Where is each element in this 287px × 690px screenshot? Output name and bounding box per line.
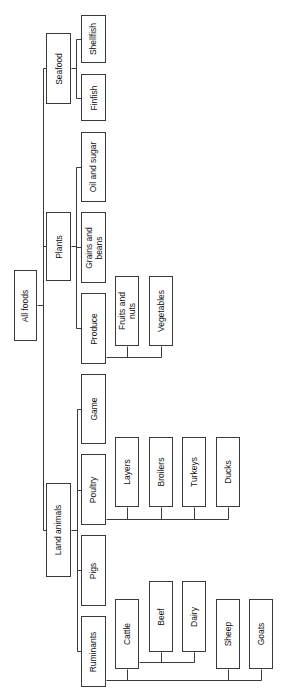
node-label: Produce bbox=[89, 313, 99, 345]
node-dairy: Dairy bbox=[182, 581, 206, 652]
node-layers: Layers bbox=[115, 437, 139, 507]
node-label: Grains and beans bbox=[84, 227, 104, 269]
node-ruminants: Ruminants bbox=[81, 616, 106, 687]
food-category-tree: All foodsSeafoodPlantsLand animalsShellf… bbox=[0, 0, 287, 690]
node-label: Cattle bbox=[122, 623, 132, 645]
node-label: Sheep bbox=[223, 622, 233, 647]
node-turkeys: Turkeys bbox=[182, 437, 206, 507]
node-seafood: Seafood bbox=[46, 33, 71, 104]
node-beef: Beef bbox=[149, 581, 173, 652]
node-game: Game bbox=[81, 374, 106, 444]
node-label: Seafood bbox=[54, 53, 64, 85]
node-pigs: Pigs bbox=[81, 535, 106, 606]
node-label: Broilers bbox=[156, 458, 166, 487]
node-label: Pigs bbox=[88, 562, 98, 579]
node-ducks: Ducks bbox=[216, 437, 240, 507]
node-label: Game bbox=[89, 397, 99, 420]
node-land-animals: Land animals bbox=[46, 483, 71, 577]
connector-lines bbox=[0, 0, 287, 690]
node-all-foods: All foods bbox=[14, 270, 37, 341]
node-label: Oil and sugar bbox=[89, 142, 99, 193]
node-label: Turkeys bbox=[189, 457, 199, 487]
node-cattle: Cattle bbox=[115, 599, 139, 669]
node-label: Vegetables bbox=[156, 290, 166, 332]
node-label: Finfish bbox=[89, 85, 99, 110]
node-label: Plants bbox=[54, 235, 64, 259]
node-vegetables: Vegetables bbox=[149, 276, 173, 346]
node-label: Poultry bbox=[89, 476, 99, 502]
node-poultry: Poultry bbox=[81, 454, 106, 525]
node-shellfish: Shellfish bbox=[81, 15, 106, 63]
node-goats: Goats bbox=[249, 599, 273, 669]
node-fruits-and-nuts: Fruits and nuts bbox=[115, 276, 139, 346]
node-label: Beef bbox=[156, 608, 166, 626]
node-oil-and-sugar: Oil and sugar bbox=[81, 132, 106, 202]
node-plants: Plants bbox=[46, 212, 71, 281]
node-label: Ducks bbox=[223, 460, 233, 484]
node-label: Goats bbox=[256, 623, 266, 646]
node-label: Shellfish bbox=[89, 23, 99, 55]
node-produce: Produce bbox=[81, 293, 106, 364]
node-broilers: Broilers bbox=[149, 437, 173, 507]
node-label: Land animals bbox=[54, 505, 64, 556]
node-finfish: Finfish bbox=[81, 74, 106, 121]
node-label: Ruminants bbox=[89, 631, 99, 672]
node-sheep: Sheep bbox=[216, 599, 240, 669]
node-label: Layers bbox=[122, 459, 132, 485]
node-label: All foods bbox=[21, 289, 31, 322]
node-label: Fruits and nuts bbox=[117, 292, 137, 330]
node-label: Dairy bbox=[189, 607, 199, 627]
node-grains-and-beans: Grains and beans bbox=[81, 212, 106, 283]
